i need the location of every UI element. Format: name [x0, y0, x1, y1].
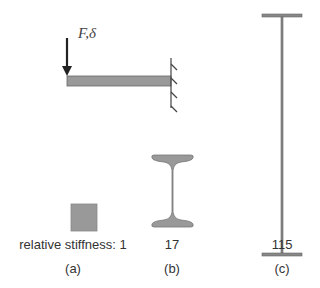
section-a-square	[71, 204, 97, 231]
stiffness-label-c: 115	[272, 237, 293, 252]
force-arrow-icon	[62, 38, 72, 76]
section-c-tall-ibeam	[262, 14, 302, 256]
stiffness-label-b: 17	[165, 237, 179, 252]
caption-b: (b)	[164, 261, 180, 276]
fixed-support-icon	[171, 58, 177, 112]
caption-c: (c)	[274, 261, 289, 276]
force-displacement-label: F,δ	[78, 25, 96, 42]
stiffness-label-a: relative stiffness: 1	[19, 237, 126, 252]
section-b-ibeam	[152, 155, 194, 227]
cantilever-beam	[67, 76, 171, 86]
caption-a: (a)	[65, 261, 81, 276]
